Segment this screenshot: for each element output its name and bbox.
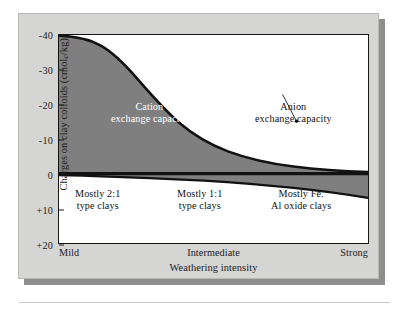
- clay-label-0-line-1: Mostly 2:1: [75, 188, 120, 200]
- y-tick-label-zero: 0: [48, 170, 53, 181]
- anion-label-line-2: exchange capacity: [255, 113, 332, 125]
- clay-label-1-line-1: Mostly 1:1: [177, 188, 222, 200]
- y-tick-mark-minus40: [59, 35, 64, 36]
- clay-type-label-strong: Mostly Fe. Al oxide clays: [271, 188, 331, 213]
- plot-area: Charges on clay colloids (cmolc/kg) -40 …: [58, 34, 369, 244]
- y-tick-mark-minus20: [59, 105, 64, 106]
- cation-label-line-2: exchange capacity: [111, 113, 188, 125]
- y-axis-title-main: Charges on clay colloids (cmol: [58, 58, 69, 190]
- anion-exchange-capacity-label: Anion exchange capacity: [255, 101, 332, 126]
- cation-exchange-capacity-label: Cation exchange capacity: [111, 101, 188, 126]
- y-tick-label-minus20: -20: [39, 100, 53, 111]
- y-tick-label-plus10: +10: [36, 205, 53, 216]
- anion-label-line-1: Anion: [255, 101, 332, 113]
- clay-label-2-line-1: Mostly Fe.: [271, 188, 331, 200]
- footer-divider: [19, 302, 390, 303]
- y-tick-mark-minus30: [59, 70, 64, 71]
- y-tick-label-minus10: -10: [39, 135, 53, 146]
- clay-label-2-line-2: Al oxide clays: [271, 200, 331, 212]
- x-tick-label-mild: Mild: [59, 247, 79, 258]
- y-tick-mark-zero: [59, 175, 64, 176]
- clay-label-0-line-2: type clays: [75, 200, 120, 212]
- y-tick-mark-minus10: [59, 140, 64, 141]
- y-tick-label-minus30: -30: [39, 65, 53, 76]
- y-tick-mark-plus10: [59, 210, 64, 211]
- y-axis-title: Charges on clay colloids (cmolc/kg): [58, 0, 71, 239]
- clay-label-1-line-2: type clays: [177, 200, 222, 212]
- clay-type-label-mild: Mostly 2:1 type clays: [75, 188, 120, 213]
- y-tick-label-plus20: +20: [36, 240, 53, 251]
- x-tick-label-strong: Strong: [340, 247, 368, 258]
- y-axis-title-subscript: c: [62, 55, 70, 58]
- cation-label-line-1: Cation: [111, 101, 188, 113]
- y-tick-label-minus40: -40: [39, 30, 53, 41]
- figure-card: Charges on clay colloids (cmolc/kg) -40 …: [18, 13, 379, 279]
- clay-type-label-intermediate: Mostly 1:1 type clays: [177, 188, 222, 213]
- x-axis-title: Weathering intensity: [169, 262, 257, 273]
- y-axis-title-tail: /kg): [58, 38, 69, 55]
- y-tick-mark-plus20: [59, 245, 64, 246]
- x-tick-label-intermediate: Intermediate: [187, 247, 240, 258]
